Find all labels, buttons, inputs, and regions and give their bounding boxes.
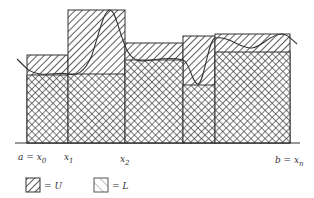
lower-rect-1 [27,75,68,143]
legend-label-lower: = L [112,181,128,191]
lower-rect-5 [215,52,290,143]
label-xn: b = xn [275,155,304,168]
label-x1: x1 [64,152,74,165]
legend-swatch-lower [94,178,108,192]
label-x0: a = x0 [18,152,47,165]
lower-rect-3 [125,60,183,143]
label-x2: x2 [120,154,130,167]
riemann-sum-diagram: a = x0 x1 x2 b = xn = U = L [0,0,314,198]
legend-label-upper: = U [44,181,62,191]
legend: = U = L [26,178,128,192]
lower-rect-4 [183,85,215,143]
lower-rect-2 [68,74,125,143]
legend-swatch-upper [26,178,40,192]
